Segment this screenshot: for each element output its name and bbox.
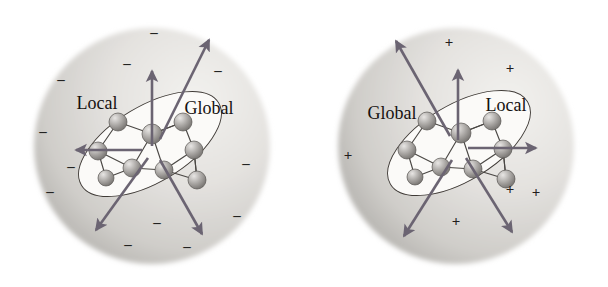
atom-sphere xyxy=(398,141,416,159)
atom-sphere xyxy=(109,113,127,131)
negative-solvent-panel-canvas xyxy=(0,0,304,287)
positive-solvent-panel: ++++++GlobalLocal xyxy=(304,0,608,287)
atom-sphere xyxy=(123,159,141,177)
atom-sphere xyxy=(185,141,203,159)
solvation-figure: ––––––––––––LocalGlobal ++++++GlobalLoca… xyxy=(0,0,608,287)
atom-sphere xyxy=(98,170,114,186)
negative-solvent-panel: ––––––––––––LocalGlobal xyxy=(0,0,304,287)
atom-sphere xyxy=(174,113,192,131)
atom-sphere xyxy=(497,170,515,188)
atom-sphere xyxy=(451,123,471,143)
atom-sphere xyxy=(483,112,501,130)
positive-solvent-panel-canvas xyxy=(304,0,608,287)
atom-sphere xyxy=(407,169,423,185)
atom-sphere xyxy=(418,112,436,130)
atom-sphere xyxy=(188,171,206,189)
